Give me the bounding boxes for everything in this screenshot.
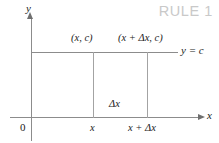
x-plus-delta-x-tick-label: x + Δx bbox=[128, 123, 156, 134]
y-axis-line bbox=[31, 19, 32, 141]
point-label-left: (x, c) bbox=[71, 33, 93, 44]
function-line-label: y = c bbox=[181, 45, 204, 56]
point-label-right: (x + Δx, c) bbox=[118, 33, 163, 44]
constant-function-line bbox=[31, 52, 178, 53]
x-axis-label: x bbox=[207, 110, 212, 121]
drop-line-x-plus-delta-x bbox=[147, 52, 148, 118]
page-title: RULE 1 bbox=[159, 3, 213, 19]
x-axis-line bbox=[10, 117, 200, 118]
y-axis-label: y bbox=[26, 3, 31, 14]
drop-line-x bbox=[93, 52, 94, 118]
delta-x-label: Δx bbox=[109, 99, 120, 110]
x-tick-label: x bbox=[90, 123, 95, 134]
origin-label: 0 bbox=[20, 122, 26, 133]
x-axis-arrow-icon bbox=[198, 114, 205, 120]
rule-1-figure: RULE 1 y x 0 (x, c) (x + Δx, c) y = c Δx… bbox=[0, 0, 219, 143]
